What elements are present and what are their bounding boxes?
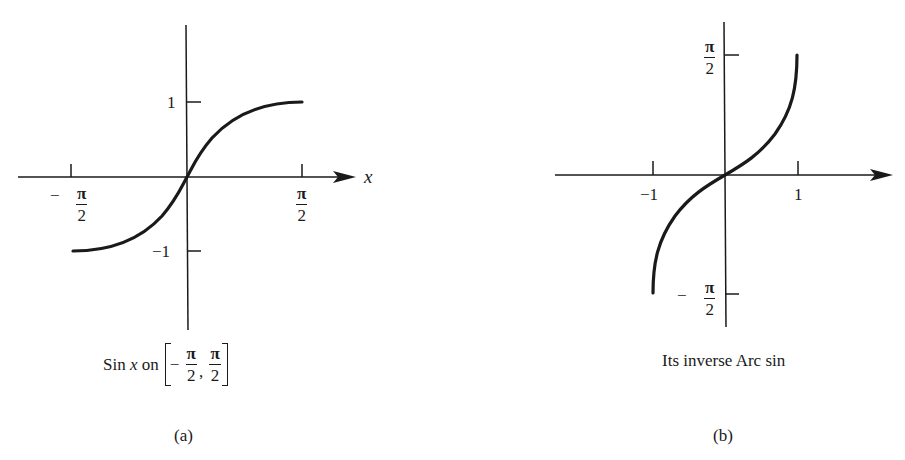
- panel-a-x-axis-label: x: [364, 167, 372, 186]
- panel-b-tick-label-one: 1: [794, 186, 803, 203]
- denominator: 2: [297, 205, 306, 224]
- denominator: 2: [705, 299, 714, 318]
- denominator: 2: [211, 365, 220, 384]
- numerator: π: [704, 279, 715, 299]
- panel-b-neg-sign: −: [677, 286, 687, 306]
- caption-interval: − π2, π2: [165, 343, 228, 386]
- denominator: 2: [77, 205, 86, 224]
- panel-b-tick-label-neg-pi-half: π 2: [704, 279, 715, 318]
- panel-b-label: (b): [713, 427, 733, 444]
- panel-a-caption: Sin x on − π2, π2: [103, 343, 228, 386]
- numerator: π: [76, 185, 87, 205]
- panel-b-tick-label-neg-one: −1: [640, 186, 658, 203]
- panel-b-caption: Its inverse Arc sin: [662, 352, 785, 369]
- panel-b-tick-label-pi-half: π 2: [704, 38, 715, 77]
- interval-comma: ,: [199, 362, 203, 384]
- numerator: π: [186, 345, 197, 365]
- numerator: π: [296, 185, 307, 205]
- caption-var: x: [130, 355, 138, 375]
- numerator: π: [704, 38, 715, 58]
- interval-neg-sign: −: [170, 355, 180, 375]
- panel-a-tick-label-pi-half: π 2: [296, 185, 307, 224]
- panel-a-tick-label-neg-pi-half: π 2: [76, 185, 87, 224]
- interval-upper: π2: [209, 345, 220, 384]
- figure-canvas: [0, 0, 905, 460]
- panel-a-label: (a): [174, 427, 193, 444]
- numerator: π: [209, 345, 220, 365]
- interval-lower: π2: [186, 345, 197, 384]
- caption-on: on: [142, 355, 159, 375]
- panel-a-neg-sign: −: [50, 186, 60, 206]
- panel-a-axes: [18, 25, 346, 330]
- panel-a-tick-label-one: 1: [167, 94, 176, 111]
- panel-a-tick-label-neg-one: −1: [152, 243, 170, 260]
- panel-b-axes: [555, 22, 880, 327]
- denominator: 2: [705, 58, 714, 77]
- caption-sin: Sin: [103, 355, 126, 375]
- denominator: 2: [187, 365, 196, 384]
